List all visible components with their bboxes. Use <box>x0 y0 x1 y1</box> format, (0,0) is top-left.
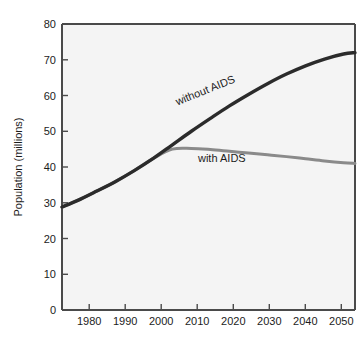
y-tick-label-40: 40 <box>44 161 56 173</box>
y-tick-label-30: 30 <box>44 197 56 209</box>
y-tick-label-60: 60 <box>44 90 56 102</box>
x-tick-label-2010: 2010 <box>185 315 209 327</box>
y-tick-label-0: 0 <box>50 304 56 316</box>
chart-figure: 80 70 60 50 40 30 20 10 0 1980 1990 2000 <box>0 0 362 338</box>
plot-area-background <box>62 24 355 310</box>
x-tick-label-2040: 2040 <box>293 315 317 327</box>
y-axis-tick-labels: 80 70 60 50 40 30 20 10 0 <box>44 18 56 316</box>
population-projection-line-chart: 80 70 60 50 40 30 20 10 0 1980 1990 2000 <box>0 0 362 338</box>
y-tick-label-80: 80 <box>44 18 56 30</box>
series-annotation-with-aids: with AIDS <box>197 152 246 164</box>
x-tick-label-1980: 1980 <box>77 315 101 327</box>
x-tick-label-2020: 2020 <box>221 315 245 327</box>
y-tick-label-50: 50 <box>44 125 56 137</box>
y-tick-label-70: 70 <box>44 54 56 66</box>
y-tick-label-20: 20 <box>44 233 56 245</box>
x-tick-label-2050: 2050 <box>329 315 353 327</box>
y-tick-label-10: 10 <box>44 268 56 280</box>
x-tick-label-1990: 1990 <box>113 315 137 327</box>
y-axis-title: Population (millions) <box>12 117 24 216</box>
x-tick-label-2000: 2000 <box>149 315 173 327</box>
x-tick-label-2030: 2030 <box>257 315 281 327</box>
